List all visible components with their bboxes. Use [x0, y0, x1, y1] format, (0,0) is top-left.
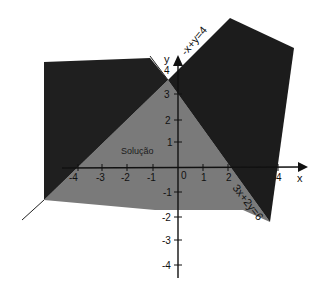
solution-region-label: Solução	[121, 146, 154, 156]
x-tick-label: 2	[226, 172, 232, 183]
y-tick-label: -3	[162, 235, 171, 246]
y-tick-label: 3	[164, 89, 170, 100]
y-tick-label: -1	[163, 187, 172, 198]
x-tick-label: 0	[181, 170, 187, 181]
x-axis-arrow-icon	[298, 162, 308, 172]
x-axis-label: x	[297, 172, 303, 184]
x-tick-label: 1	[201, 172, 207, 183]
y-tick-label: 2	[165, 115, 171, 126]
y-axis-label: y	[164, 53, 170, 65]
y-tick-label: -2	[162, 212, 171, 223]
y-tick-label: 4	[164, 65, 170, 76]
inequality-graph: x y -4 -3 -2 -1 0 1 2 4 4 3 2 1 -1 -2 -3…	[0, 0, 328, 294]
y-axis-arrow-icon	[173, 55, 183, 66]
x-tick-label: 4	[276, 172, 282, 183]
boundary-line-extension	[22, 200, 44, 220]
x-tick-label: -2	[121, 172, 130, 183]
y-tick-label: 1	[167, 137, 173, 148]
x-tick-label: -1	[147, 172, 156, 183]
x-tick-label: -4	[69, 172, 78, 183]
x-tick-label: -3	[96, 172, 105, 183]
y-tick-label: -4	[162, 260, 171, 271]
